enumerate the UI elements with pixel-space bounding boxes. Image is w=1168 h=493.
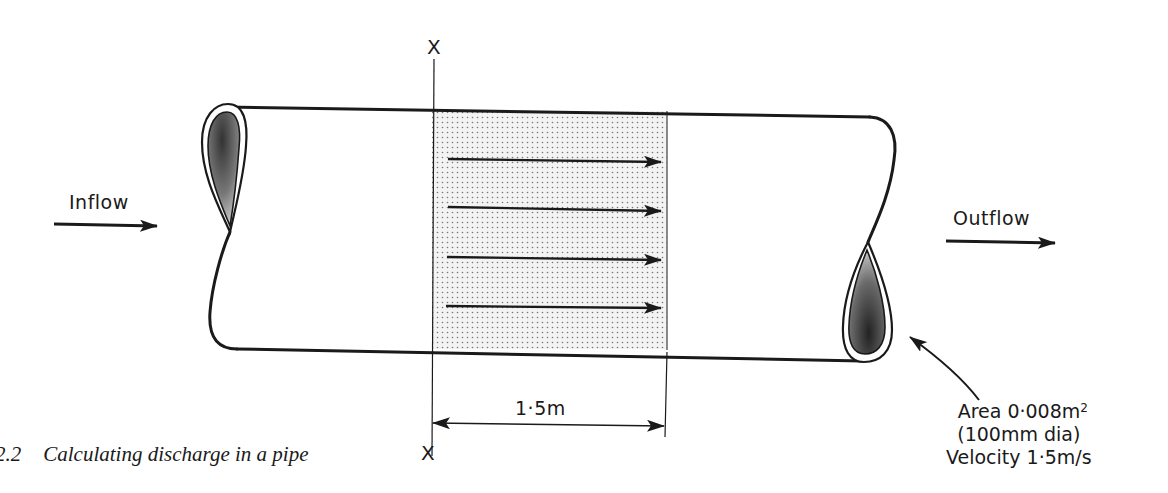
stippled-control-volume bbox=[432, 111, 667, 350]
figure-number: 2.2 bbox=[0, 442, 21, 466]
pipe-right-opening-icon bbox=[843, 242, 892, 362]
area-pointer-arrow-icon bbox=[910, 337, 979, 400]
length-dimension bbox=[433, 352, 667, 437]
pipe-specs-annotation: Area 0·008m2 (100mm dia) Velocity 1·5m/s bbox=[946, 400, 1092, 469]
area-line: Area 0·008m2 bbox=[954, 400, 1092, 423]
figure-caption: 2.2Calculating discharge in a pipe bbox=[0, 442, 308, 467]
diameter-line: (100mm dia) bbox=[946, 423, 1092, 446]
outflow-arrow-icon bbox=[946, 241, 1055, 243]
area-exponent: 2 bbox=[1080, 401, 1088, 415]
inflow-label: Inflow bbox=[69, 191, 129, 213]
section-label-top: X bbox=[427, 35, 441, 59]
figure-caption-text: Calculating discharge in a pipe bbox=[43, 442, 308, 466]
length-dimension-label: 1·5m bbox=[515, 397, 566, 419]
inflow-arrow-icon bbox=[54, 224, 157, 226]
velocity-line: Velocity 1·5m/s bbox=[946, 446, 1092, 469]
outflow-label: Outflow bbox=[953, 207, 1030, 229]
pipe-left-opening-icon bbox=[202, 104, 246, 232]
section-label-bottom: X bbox=[421, 441, 435, 465]
